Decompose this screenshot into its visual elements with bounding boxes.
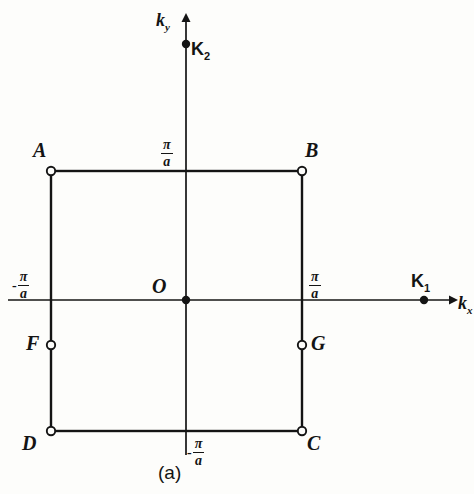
k1-vector-point-marker [420, 296, 428, 304]
vertex-label-b: B [305, 140, 318, 160]
tick-label-kx-positive: πa [308, 270, 321, 301]
vertex-label-a: A [33, 140, 46, 160]
tick-fraction-ky-negative: πa [193, 437, 205, 468]
tick-fraction-kx-positive: πa [309, 270, 321, 301]
figure-caption: (a) [158, 462, 181, 484]
ky-axis-label: ky [156, 11, 170, 33]
k1-subscript: 1 [424, 282, 430, 294]
k2-letter: K [191, 39, 204, 59]
vertex-label-c: C [307, 433, 320, 453]
k1-vector-label: K1 [411, 272, 430, 294]
kx-axis-arrowhead [449, 296, 458, 305]
tick-label-kx-negative: -πa [12, 270, 29, 301]
tick-fraction-ky-positive: πa [161, 138, 173, 169]
k2-vector-point-marker [182, 40, 190, 48]
k2-subscript: 2 [204, 50, 210, 62]
vertex-d-marker [47, 427, 55, 435]
tick-denominator-ky-positive: a [161, 154, 173, 169]
tick-numerator-ky-positive: π [161, 138, 173, 154]
k2-vector-label: K2 [191, 40, 210, 62]
vertex-label-f: F [26, 333, 39, 353]
tick-denominator-kx-positive: a [309, 286, 321, 301]
vertex-a-marker [47, 167, 55, 175]
vertex-g-marker [298, 341, 306, 349]
tick-numerator-ky-negative: π [193, 437, 205, 453]
kx-subscript: x [467, 304, 473, 316]
k1-letter: K [411, 271, 424, 291]
tick-fraction-kx-negative: πa [18, 270, 30, 301]
origin-point-marker [182, 296, 190, 304]
vertex-b-marker [298, 167, 306, 175]
tick-denominator-ky-negative: a [193, 453, 205, 468]
ky-subscript: y [165, 21, 170, 33]
tick-denominator-kx-negative: a [18, 286, 30, 301]
vertex-c-marker [298, 427, 306, 435]
tick-label-ky-negative: -πa [187, 437, 204, 468]
ky-letter: k [156, 10, 165, 30]
vertex-label-d: D [22, 433, 36, 453]
ky-axis-arrowhead [182, 13, 191, 22]
kx-letter: k [458, 293, 467, 313]
brillouin-zone-square [51, 171, 302, 431]
tick-numerator-kx-negative: π [18, 270, 30, 286]
vertex-label-g: G [311, 333, 325, 353]
tick-label-ky-positive: πa [160, 138, 173, 169]
diagram-canvas [0, 0, 474, 494]
vertex-f-marker [47, 341, 55, 349]
tick-numerator-kx-positive: π [309, 270, 321, 286]
kx-axis-label: kx [458, 294, 473, 316]
origin-label: O [152, 276, 166, 296]
brillouin-zone-figure: A B C D F G O K1 K2 kx ky πa -πa πa -πa … [0, 0, 474, 494]
